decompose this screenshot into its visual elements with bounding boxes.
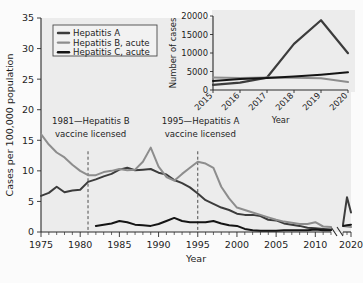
inset-y-axis-title: Number of cases — [168, 18, 178, 89]
annotation-label: vaccine licensed — [165, 129, 236, 139]
inset-y-axis-tick-label: 5000 — [187, 67, 208, 77]
legend-label: Hepatitis C, acute — [73, 47, 150, 57]
inset-y-axis-tick-label: 15000 — [181, 30, 208, 40]
legend-label: Hepatitis B, acute — [73, 38, 150, 48]
y-axis-tick-label: 30 — [22, 43, 34, 54]
y-axis-tick-label: 5 — [28, 196, 34, 207]
y-axis-tick-label: 15 — [22, 135, 34, 146]
annotation-label: vaccine licensed — [55, 129, 126, 139]
hepatitis-incidence-figure: 05101520253035Cases per 100,000 populati… — [0, 0, 363, 283]
inset-x-axis-title: Year — [271, 115, 290, 125]
x-axis-title: Year — [185, 253, 206, 264]
chart-canvas: 05101520253035Cases per 100,000 populati… — [0, 0, 363, 283]
y-axis-tick-label: 35 — [22, 12, 34, 23]
x-axis-tick-label: 1975 — [29, 239, 53, 250]
data-line — [343, 225, 351, 226]
x-axis-tick-label: 2005 — [264, 239, 288, 250]
legend-label: Hepatitis A — [73, 28, 120, 38]
x-axis-tick-label: 2000 — [225, 239, 249, 250]
x-axis-tick-label: 1990 — [146, 239, 170, 250]
y-axis-tick-label: 20 — [22, 104, 34, 115]
y-axis-tick-label: 25 — [22, 74, 34, 85]
inset-y-axis-tick-label: 10000 — [181, 48, 208, 58]
x-axis-tick-label: 1985 — [107, 239, 131, 250]
y-axis-tick-label: 0 — [28, 226, 34, 237]
x-axis-tick-label: 2010 — [303, 239, 327, 250]
x-axis-tick-label: 2020 — [339, 239, 363, 250]
y-axis-tick-label: 10 — [22, 165, 34, 176]
x-axis-tick-label: 1995 — [186, 239, 210, 250]
inset-y-axis-tick-label: 20000 — [181, 11, 208, 21]
y-axis-title: Cases per 100,000 population — [4, 54, 15, 197]
x-axis-tick-label: 1980 — [68, 239, 92, 250]
annotation-label: 1981—Hepatitis B — [52, 116, 130, 126]
annotation-label: 1995—Hepatitis A — [162, 116, 240, 126]
